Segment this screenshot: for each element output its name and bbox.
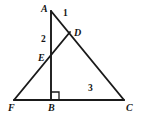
geometry-figure: A D E F B C 1 2 3	[0, 0, 141, 122]
vertex-label-F: F	[8, 103, 15, 113]
vertex-label-E: E	[38, 53, 45, 63]
vertex-label-B: B	[48, 103, 55, 113]
angle-label-1: 1	[63, 9, 68, 19]
angle-label-2: 2	[41, 35, 46, 45]
vertex-label-C: C	[126, 103, 133, 113]
vertex-label-A: A	[41, 4, 48, 14]
right-angle-marker-at-B	[51, 92, 59, 100]
vertex-label-D: D	[74, 28, 81, 38]
angle-label-3: 3	[88, 84, 93, 94]
geometry-canvas	[0, 0, 141, 122]
